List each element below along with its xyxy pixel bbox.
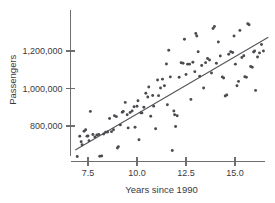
data-point [156,79,159,82]
data-point [234,63,237,66]
data-point [122,110,125,113]
data-point [87,134,90,137]
data-point [256,56,259,59]
y-axis-tick-label: 1,000,000 [22,84,62,94]
data-point [151,94,154,97]
data-point [166,103,169,106]
data-point [136,105,139,108]
data-point [91,133,94,136]
data-point [171,149,174,152]
data-point [131,110,134,113]
data-point [236,84,239,87]
data-point [106,131,109,134]
data-point [97,133,100,136]
data-point [197,50,200,53]
data-point [217,41,220,44]
data-point [189,98,192,101]
data-point [227,53,230,56]
data-point [146,95,149,98]
data-point [208,59,211,62]
data-point [233,35,236,38]
data-point [191,61,194,64]
data-point [213,25,216,28]
data-point [80,140,83,143]
data-point [144,92,147,95]
data-point [126,113,129,116]
data-point [134,126,137,129]
data-point [167,49,170,52]
data-point [245,76,248,79]
data-point [260,43,263,46]
data-point [124,101,127,104]
data-point [133,105,136,108]
x-axis-title: Years since 1990 [125,184,198,195]
data-point [140,111,143,114]
data-point [251,66,254,69]
data-point [185,73,188,76]
x-axis-tick-label: 7.5 [82,168,95,178]
data-point [238,29,241,32]
data-point [159,86,162,89]
data-point [231,51,234,54]
data-point [222,77,225,80]
data-point [176,114,179,117]
data-point [163,84,166,87]
data-point [142,106,145,109]
data-point [147,86,150,89]
data-point [81,143,84,146]
data-point [108,117,111,120]
data-point [188,63,191,66]
data-point [112,128,115,131]
data-point [117,145,120,148]
data-point [198,75,201,78]
data-point [215,62,218,65]
data-point [237,80,240,83]
data-point [78,135,81,138]
data-point [165,62,168,65]
data-point [193,70,196,73]
data-point [161,78,164,81]
scatter-plot-figure: 800,0001,000,0001,200,0007.510.012.515.0… [0,0,275,203]
data-point [183,38,186,41]
data-point [258,51,261,54]
data-point [225,94,228,97]
data-point [88,139,91,142]
data-point [100,155,103,158]
data-point [127,126,130,129]
y-axis-title: Passengers [7,54,18,104]
y-axis-tick-label: 800,000 [30,121,63,131]
data-point [219,55,222,58]
data-point [202,86,205,89]
data-point [169,75,172,78]
data-point [182,62,185,65]
data-point [149,115,152,118]
data-point [84,128,87,131]
data-point [76,155,79,158]
data-point [157,94,160,97]
data-point [200,64,203,67]
data-point [178,76,181,79]
data-point [172,110,175,113]
data-point [242,54,245,57]
data-point [89,110,92,113]
data-point [119,123,122,126]
data-point [262,50,265,53]
data-point [173,113,176,116]
data-point [210,71,213,74]
data-point [254,89,257,92]
data-point [154,127,157,130]
data-point [253,50,256,53]
data-point [137,99,140,102]
data-point [138,138,141,141]
data-point [115,115,118,118]
axes-group [66,10,265,166]
data-point [195,35,198,38]
data-point [204,61,207,64]
data-points-group [76,22,265,158]
data-point [174,125,177,128]
data-point [152,105,155,108]
plot-canvas: 800,0001,000,0001,200,0007.510.012.515.0… [0,0,275,203]
x-axis-tick-label: 12.5 [177,168,195,178]
y-axis-tick-label: 1,200,000 [22,46,62,56]
x-axis-tick-label: 10.0 [128,168,146,178]
